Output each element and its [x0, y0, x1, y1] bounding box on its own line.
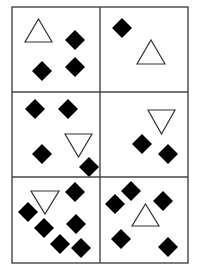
panel-1: [25, 19, 85, 81]
diamond-shape: [65, 30, 85, 50]
triangle-down-shape: [148, 110, 175, 134]
panel-3: [25, 99, 99, 177]
diagram-canvas: [0, 0, 199, 276]
panel-4: [132, 110, 178, 164]
panel-5: [18, 182, 91, 258]
diamond-shape: [105, 194, 125, 214]
triangle-up-shape: [25, 19, 52, 42]
diamond-shape: [66, 214, 86, 234]
panel-6: [105, 181, 178, 257]
diamond-shape: [65, 57, 85, 77]
diamond-shape: [58, 99, 78, 119]
diamond-shape: [50, 234, 70, 254]
diamond-shape: [158, 144, 178, 164]
diamond-shape: [79, 157, 99, 177]
shapes-layer: [18, 18, 178, 258]
diamond-shape: [65, 182, 85, 202]
triangle-up-shape: [137, 40, 165, 64]
diamond-shape: [32, 144, 52, 164]
diamond-shape: [34, 218, 54, 238]
diamond-shape: [32, 61, 52, 81]
diamond-shape: [25, 99, 45, 119]
diamond-shape: [112, 18, 132, 38]
diamond-shape: [153, 191, 173, 211]
diamond-shape: [158, 237, 178, 257]
triangle-up-shape: [132, 204, 159, 226]
diamond-shape: [121, 181, 141, 201]
shape-grid-diagram: [0, 0, 199, 276]
diamond-shape: [18, 202, 38, 222]
diamond-shape: [132, 134, 152, 154]
panel-2: [112, 18, 165, 64]
diamond-shape: [71, 238, 91, 258]
diamond-shape: [111, 229, 131, 249]
triangle-down-shape: [65, 134, 92, 157]
